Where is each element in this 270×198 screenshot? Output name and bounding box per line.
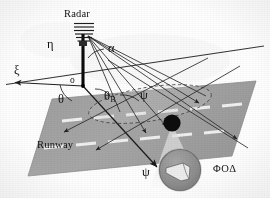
axis-xi-label: ξ [14, 64, 20, 77]
angle-theta-label: θ [58, 93, 64, 106]
runway-label: Runway [37, 140, 73, 151]
angle-psi-upper-label: ψ [140, 89, 148, 102]
origin-point [81, 84, 85, 88]
scan-smudge [20, 22, 230, 86]
fod-magnified-inset [160, 150, 201, 191]
fod-object-marker [163, 114, 180, 131]
figure-canvas: Radar η ξ o α θ θB ψ ψ Runway ΦΟΔ [0, 0, 270, 198]
angle-psi-lower-label: ψ [142, 166, 150, 179]
angle-theta-b-subscript: B [111, 95, 116, 104]
axis-eta-label: η [47, 38, 54, 51]
angle-alpha-label: α [108, 42, 115, 55]
radar-label: Radar [64, 9, 90, 20]
antenna-base-block [79, 41, 87, 46]
angle-theta-b-symbol: θ [104, 89, 110, 103]
fod-label: ΦΟΔ [213, 164, 237, 175]
origin-label: o [70, 76, 75, 86]
angle-theta-b-label: θB [104, 90, 116, 104]
